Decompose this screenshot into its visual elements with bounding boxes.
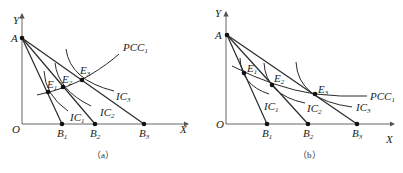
ic3-label: IC3: [355, 101, 371, 115]
y-axis-label: Y: [215, 7, 223, 19]
diagram-canvas: Y X O A B1 B2 B3 E1 E2 E3 IC1 IC2 IC3 PC…: [0, 0, 403, 173]
point-e2-label: E2: [273, 72, 285, 86]
point-b2-label: B2: [303, 127, 314, 141]
point-b3: [355, 122, 360, 127]
panel-b-caption: （b）: [298, 150, 321, 160]
point-a: [20, 36, 25, 41]
origin-label: O: [216, 118, 224, 130]
point-b1-label: B1: [262, 127, 272, 141]
point-e3-label: E3: [79, 64, 91, 78]
point-a-label: A: [214, 29, 222, 41]
point-e3: [313, 92, 318, 97]
ic1-label: IC1: [69, 111, 85, 125]
point-a: [225, 33, 230, 38]
point-e1-label: E1: [246, 62, 257, 76]
point-b1-label: B1: [57, 127, 67, 141]
point-e1: [46, 90, 51, 95]
point-b3-label: B3: [352, 127, 363, 141]
point-b1: [60, 122, 65, 127]
ic1-label: IC1: [263, 100, 279, 114]
ic2-label: IC2: [99, 106, 115, 120]
x-axis-label: X: [385, 133, 394, 145]
point-e2-label: E2: [61, 73, 73, 87]
point-b2: [93, 122, 98, 127]
point-b2: [306, 122, 311, 127]
panel-a-caption: （a）: [92, 150, 114, 160]
panel-a: Y X O A B1 B2 B3 E1 E2 E3 IC1 IC2 IC3 PC…: [10, 14, 188, 160]
point-a-label: A: [10, 32, 18, 44]
pcc-label: PCC1: [122, 41, 148, 55]
point-e3-label: E3: [317, 83, 329, 97]
ic3-label: IC3: [115, 90, 131, 104]
point-b3-label: B3: [139, 127, 150, 141]
point-e2: [61, 85, 66, 90]
ic2-label: IC2: [306, 102, 322, 116]
point-b1: [265, 122, 270, 127]
point-e3: [80, 78, 85, 83]
y-axis-label: Y: [13, 14, 21, 26]
pcc-label: PCC1: [369, 90, 395, 104]
point-b2-label: B2: [90, 127, 101, 141]
x-axis-label: X: [179, 123, 188, 135]
budget-line-ab1: [22, 38, 62, 124]
origin-label: O: [12, 123, 20, 135]
point-b3: [142, 122, 147, 127]
panel-b: Y X O A B1 B2 B3 E1 E2 E3 IC1 IC2 IC3 PC…: [214, 7, 395, 160]
point-e1: [242, 71, 247, 76]
point-e1-label: E1: [46, 78, 57, 92]
